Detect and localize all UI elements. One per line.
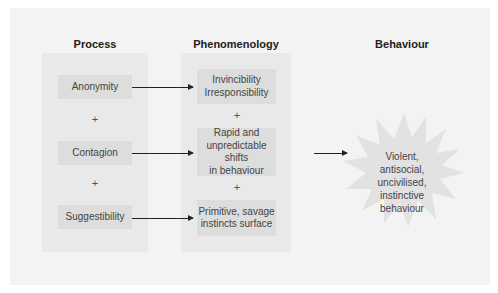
- plus-sign: +: [227, 109, 247, 121]
- process-node-anonymity: Anonymity: [58, 75, 132, 99]
- phenomenology-node-invincibility: Invincibility Irresponsibility: [197, 69, 276, 104]
- process-node-suggestibility: Suggestibility: [58, 205, 132, 229]
- behaviour-column-title: Behaviour: [352, 38, 452, 50]
- plus-sign: +: [85, 113, 105, 125]
- plus-sign: +: [227, 181, 247, 193]
- process-column-title: Process: [42, 38, 148, 50]
- behaviour-outcome: Violent, antisocial, uncivilised, instin…: [352, 150, 452, 215]
- phenomenology-node-rapid-shifts: Rapid and unpredictable shifts in behavi…: [197, 128, 276, 176]
- process-node-contagion: Contagion: [58, 141, 132, 165]
- phenomenology-node-primitive-instincts: Primitive, savage instincts surface: [197, 200, 276, 236]
- plus-sign: +: [85, 177, 105, 189]
- arrow-anonymity: [132, 87, 193, 88]
- phenomenology-column-title: Phenomenology: [181, 38, 291, 50]
- arrow-contagion: [132, 153, 193, 154]
- arrow-suggestibility: [132, 218, 193, 219]
